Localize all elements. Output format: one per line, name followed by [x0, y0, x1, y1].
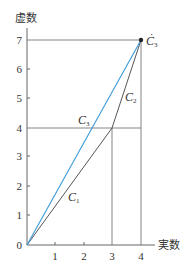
x-tick-4: 4: [138, 250, 144, 262]
vector-c1: [27, 128, 112, 245]
y-tick-5: 5: [17, 92, 23, 104]
x-axis-label: 実数: [158, 238, 180, 252]
x-tick-3: 3: [109, 250, 115, 262]
x-tick-2: 2: [81, 250, 87, 262]
y-tick-3: 3: [17, 150, 23, 162]
complex-plane-diagram: 0 1 2 3 4 5 6 7 1 2 3 4 虚数 実数 C1 C2 C3 Ċ…: [0, 0, 193, 270]
point-c3: [139, 38, 143, 42]
y-axis-label: 虚数: [15, 12, 37, 25]
label-c1: C1: [68, 190, 80, 205]
y-tick-1: 1: [17, 209, 23, 221]
y-tick-4: 4: [17, 122, 23, 134]
label-c3: C3: [78, 113, 90, 128]
x-tick-1: 1: [52, 250, 58, 262]
label-c2: C2: [125, 90, 137, 105]
y-tick-6: 6: [17, 63, 23, 75]
y-tick-2: 2: [17, 180, 23, 192]
label-c3-point: Ċ3: [146, 33, 158, 49]
x-tick-labels: 1 2 3 4: [52, 250, 144, 262]
vector-c3: [27, 40, 141, 245]
y-tick-labels: 0 1 2 3 4 5 6 7: [17, 34, 23, 251]
y-tick-7: 7: [17, 34, 23, 46]
y-tick-0: 0: [17, 239, 23, 251]
